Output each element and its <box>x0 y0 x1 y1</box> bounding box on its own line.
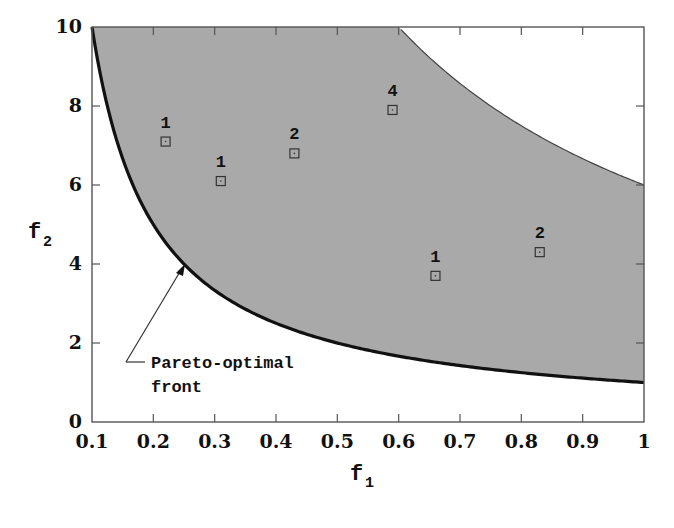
x-tick-label: 0.7 <box>443 430 476 452</box>
x-tick-label: 0.4 <box>259 430 292 452</box>
x-tick-label: 0.8 <box>505 430 538 452</box>
x-tick-label: 0.6 <box>382 430 415 452</box>
y-tick-label: 6 <box>69 173 82 195</box>
y-axis-subscript: 2 <box>43 234 52 251</box>
marker-dot <box>220 180 222 182</box>
x-axis-label: f <box>350 462 363 487</box>
marker-dot <box>294 153 296 155</box>
x-tick-label: 0.3 <box>198 430 231 452</box>
feasible-region <box>92 27 644 383</box>
y-tick-label: 8 <box>69 94 82 116</box>
point-count-label: 2 <box>289 125 299 144</box>
marker-dot <box>539 251 541 253</box>
y-tick-label: 10 <box>56 15 82 37</box>
y-axis-title: f 2 <box>28 220 52 251</box>
feasible-region-fill <box>92 27 644 383</box>
y-axis-label: f <box>28 220 41 245</box>
point-count-label: 2 <box>535 224 545 243</box>
marker-dot <box>165 141 167 143</box>
x-axis-title: f 1 <box>350 462 374 492</box>
y-tick-label: 2 <box>69 331 82 353</box>
marker-dot <box>435 275 437 277</box>
x-tick-label: 0.1 <box>75 430 108 452</box>
point-count-label: 1 <box>216 153 226 172</box>
point-count-label: 1 <box>160 114 170 133</box>
point-count-label: 4 <box>387 82 397 101</box>
y-tick-label: 4 <box>69 252 82 274</box>
x-tick-label: 0.2 <box>137 430 170 452</box>
chart: 0.10.20.30.40.50.60.70.80.910246810 1124… <box>0 0 674 528</box>
x-tick-label: 0.9 <box>566 430 599 452</box>
point-count-label: 1 <box>430 248 440 267</box>
y-tick-label: 0 <box>69 410 82 432</box>
arrow-head-icon <box>176 264 185 276</box>
x-axis-subscript: 1 <box>365 475 374 492</box>
annotation-arrow-line <box>126 270 181 362</box>
x-tick-label: 0.5 <box>321 430 354 452</box>
marker-dot <box>392 109 394 111</box>
annotation-line-1: Pareto-optimal <box>151 354 294 373</box>
x-tick-label: 1 <box>637 430 650 452</box>
annotation-line-2: front <box>151 378 202 397</box>
